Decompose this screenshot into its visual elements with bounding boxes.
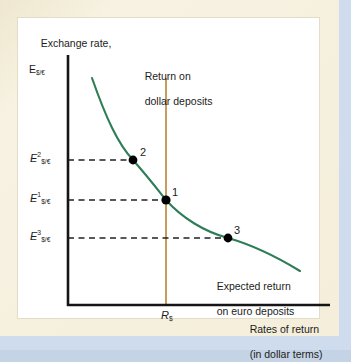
x-axis-title-line2: (in dollar terms) bbox=[250, 348, 323, 360]
annotation-dollar-return: Return on dollar deposits bbox=[133, 58, 212, 120]
data-point-3[interactable] bbox=[224, 234, 233, 243]
data-point-2[interactable] bbox=[129, 156, 138, 165]
y-axis-title-symbol: E$/€ bbox=[29, 63, 111, 75]
annotation-euro-return-line1: Expected return bbox=[217, 280, 291, 292]
y-tick-label-E1: E1$/€ bbox=[30, 192, 50, 205]
y-tick-label-E3: E3$/€ bbox=[30, 230, 50, 243]
x-tick-label-Rs: R$ bbox=[161, 309, 173, 322]
data-point-label-3: 3 bbox=[234, 224, 240, 237]
data-point-label-1: 1 bbox=[172, 186, 178, 199]
data-point-1[interactable] bbox=[161, 195, 170, 204]
annotation-dollar-return-line1: Return on bbox=[145, 70, 191, 82]
x-axis-title: Rates of return (in dollar terms) bbox=[238, 311, 323, 362]
data-point-label-2: 2 bbox=[140, 146, 146, 159]
y-axis-title: Exchange rate, E$/€ bbox=[29, 25, 111, 100]
y-tick-label-E2: E2$/€ bbox=[30, 152, 50, 165]
annotation-dollar-return-line2: dollar deposits bbox=[145, 95, 213, 107]
y-axis-title-line1: Exchange rate, bbox=[41, 37, 112, 49]
figure-page: Exchange rate, E$/€ E2$/€ E1$/€ E3$/€ R$… bbox=[0, 0, 351, 362]
x-axis-title-line1: Rates of return bbox=[250, 323, 319, 335]
